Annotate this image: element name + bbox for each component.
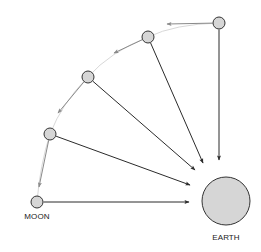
orbit-diagram: EARTH MOON xyxy=(0,0,261,252)
velocity-arrow-3 xyxy=(58,82,84,113)
velocity-arrow-2 xyxy=(114,40,142,53)
moon-3-body xyxy=(82,71,94,83)
moon-2-body xyxy=(142,31,154,43)
gravity-arrow-4 xyxy=(56,136,190,185)
gravity-arrows xyxy=(44,30,220,203)
earth-body xyxy=(202,177,250,225)
gravity-arrow-2 xyxy=(151,43,203,163)
moon-4-body xyxy=(44,128,56,140)
moon-5-body xyxy=(31,196,43,208)
velocity-arrow-4 xyxy=(39,140,49,187)
gravity-arrow-3 xyxy=(93,81,195,170)
earth-label: EARTH xyxy=(212,233,240,242)
orbit-path xyxy=(37,23,219,202)
moon-1-body xyxy=(213,17,225,29)
moon-label: MOON xyxy=(24,212,49,221)
